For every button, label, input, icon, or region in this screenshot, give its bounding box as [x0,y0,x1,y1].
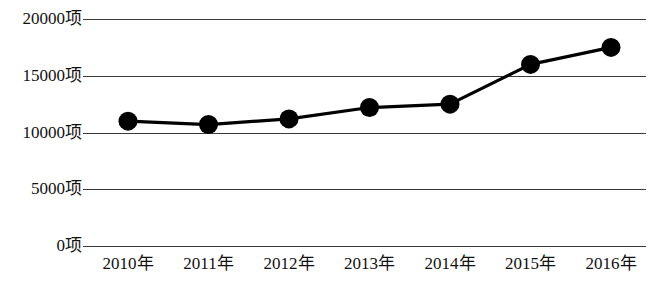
x-axis-tick-label: 2013年 [344,254,395,274]
y-axis-tick-label: 15000项 [23,67,83,84]
plot-area [83,19,646,246]
x-axis-tick-label: 2015年 [505,254,556,274]
y-axis: 0项5000项10000项15000项20000项 [0,0,82,288]
x-axis-tick-label: 2016年 [586,254,637,274]
y-axis-tick-label: 10000项 [23,124,83,141]
data-point-marker [199,115,218,134]
data-series [83,19,646,246]
data-point-marker [360,98,379,117]
data-point-marker [602,38,621,57]
y-axis-tick-label: 20000项 [23,10,83,27]
y-axis-tick-label: 0项 [57,237,83,254]
x-axis-tick-label: 2012年 [264,254,315,274]
data-point-marker [280,109,299,128]
gridline [83,246,646,247]
data-point-marker [119,112,138,131]
x-axis-tick-label: 2011年 [183,254,233,274]
line-chart: 0项5000项10000项15000项20000项 2010年2011年2012… [0,0,648,288]
y-axis-tick-label: 5000项 [31,180,82,197]
data-point-marker [521,55,540,74]
x-axis: 2010年2011年2012年2013年2014年2015年2016年 [83,254,646,284]
x-axis-tick-label: 2010年 [103,254,154,274]
data-point-marker [441,95,460,114]
x-axis-tick-label: 2014年 [425,254,476,274]
